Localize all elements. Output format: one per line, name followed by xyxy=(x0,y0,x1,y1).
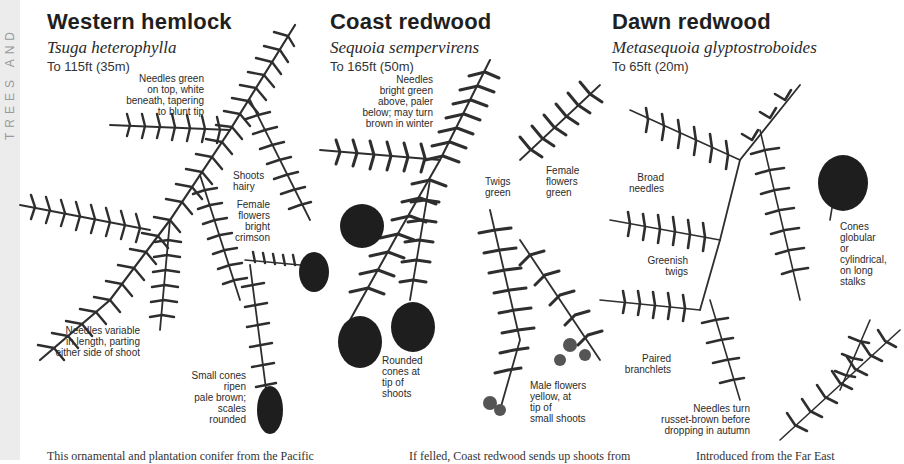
species-height: To 65ft (20m) xyxy=(612,59,817,75)
species-latin-name: Metasequoia glyptostroboides xyxy=(612,38,817,58)
species-common-name: Dawn redwood xyxy=(612,10,817,34)
annotation-needles: Needles bright green above, paler below;… xyxy=(360,74,433,129)
species-latin-name: Tsuga heterophylla xyxy=(47,38,232,58)
annotation-female-flowers: Female flowers bright crimson xyxy=(220,199,270,243)
redwood-cone-1 xyxy=(340,204,384,248)
annotation-needles-turn: Needles turn russet-brown before droppin… xyxy=(640,403,750,436)
annotation-needles: Needles green on top, white beneath, tap… xyxy=(104,73,204,117)
body-text-hemlock: This ornamental and plantation conifer f… xyxy=(47,449,314,464)
redwood-cone-2 xyxy=(338,316,382,368)
species-common-name: Coast redwood xyxy=(330,10,492,34)
annotation-cones: Cones globular or cylindrical, on long s… xyxy=(840,221,887,287)
annotation-paired-branchlets: Paired branchlets xyxy=(614,353,671,375)
species-dawn-redwood: Dawn redwood Metasequoia glyptostroboide… xyxy=(612,10,817,75)
body-text-dawn-redwood: Introduced from the Far East xyxy=(696,449,835,464)
species-height: To 165ft (50m) xyxy=(330,59,492,75)
species-common-name: Western hemlock xyxy=(47,10,232,34)
annotation-shoots: Shoots hairy xyxy=(233,170,264,192)
annotation-small-cones: Small cones ripen pale brown; scales rou… xyxy=(176,370,246,425)
hemlock-cone-small xyxy=(299,252,329,292)
species-latin-name: Sequoia sempervirens xyxy=(330,38,492,58)
species-western-hemlock: Western hemlock Tsuga heterophylla To 11… xyxy=(47,10,232,75)
hemlock-cone-ripe xyxy=(257,386,283,434)
body-text-coast-redwood: If felled, Coast redwood sends up shoots… xyxy=(409,449,630,464)
annotation-greenish-twigs: Greenish twigs xyxy=(625,255,688,277)
dawn-redwood-cone xyxy=(818,155,868,211)
species-coast-redwood: Coast redwood Sequoia sempervirens To 16… xyxy=(330,10,492,75)
annotation-male-flowers: Male flowers yellow, at tip of small sho… xyxy=(530,380,586,424)
annotation-female-flowers: Female flowers green xyxy=(546,165,579,198)
redwood-cone-3 xyxy=(391,302,435,352)
annotation-needles-variable: Needles variable in length, parting eith… xyxy=(40,325,140,358)
annotation-twigs: Twigs green xyxy=(485,176,511,198)
annotation-broad-needles: Broad needles xyxy=(600,172,664,194)
annotation-rounded-cones: Rounded cones at tip of shoots xyxy=(382,355,423,399)
